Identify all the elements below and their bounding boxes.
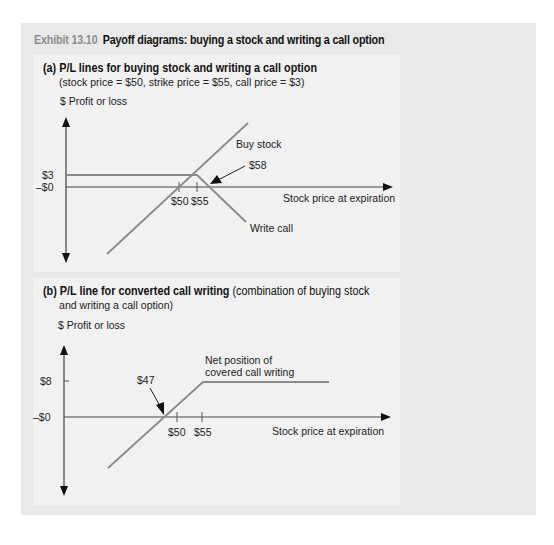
x-axis-label: Stock price at expiration <box>272 425 384 437</box>
x-axis-label: Stock price at expiration <box>283 192 395 204</box>
x-tick-50: $50 <box>168 426 186 438</box>
exhibit-title: Exhibit 13.10Payoff diagrams: buying a s… <box>34 33 384 47</box>
y-tick-8: $8 <box>40 375 52 387</box>
y-axis-down-arrow-icon <box>60 486 68 496</box>
breakeven-47-label: $47 <box>137 374 155 386</box>
buy-stock-label: Buy stock <box>236 138 282 150</box>
breakeven-58-label: $58 <box>249 159 267 171</box>
panel-a-chart: $ Profit or loss Stock price at expirati… <box>33 55 400 272</box>
exhibit-heading: Payoff diagrams: buying a stock and writ… <box>103 33 385 47</box>
x-tick-50: $50 <box>171 195 189 207</box>
breakeven-58-pointer <box>218 166 245 180</box>
y-axis-up-arrow-icon <box>62 117 70 127</box>
net-position-label-2: covered call writing <box>205 366 294 378</box>
y-axis-label: $ Profit or loss <box>60 95 127 107</box>
arrowhead-icon <box>156 402 164 415</box>
y-tick-0: –$0 <box>36 181 54 193</box>
panel-b-chart: $ Profit or loss Stock price at expirati… <box>33 278 400 505</box>
x-axis-arrow-icon <box>381 413 391 421</box>
arrowhead-icon <box>210 175 222 184</box>
exhibit-box: Exhibit 13.10Payoff diagrams: buying a s… <box>21 23 536 515</box>
panel-b: (b) P/L line for converted call writing … <box>33 278 400 505</box>
y-axis-label: $ Profit or loss <box>58 319 125 331</box>
breakeven-47-pointer <box>150 388 160 406</box>
y-tick-0: –$0 <box>33 411 51 423</box>
write-call-label: Write call <box>250 222 293 234</box>
x-tick-55: $55 <box>194 426 212 438</box>
x-axis-arrow-icon <box>383 183 393 191</box>
y-tick-3: $3 <box>42 169 54 181</box>
net-position-label-1: Net position of <box>205 354 272 366</box>
exhibit-number: Exhibit 13.10 <box>34 33 97 47</box>
panel-a: (a) P/L lines for buying stock and writi… <box>33 55 400 272</box>
y-axis-up-arrow-icon <box>60 345 68 355</box>
x-tick-55: $55 <box>191 195 209 207</box>
y-axis-down-arrow-icon <box>62 253 70 263</box>
buy-stock-line <box>107 123 248 254</box>
